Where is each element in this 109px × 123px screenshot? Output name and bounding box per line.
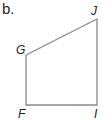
vertex-label-g: G xyxy=(16,43,25,57)
vertex-label-f: F xyxy=(18,107,26,121)
vertex-label-j: J xyxy=(90,4,98,18)
quadrilateral-shape xyxy=(26,19,97,105)
quadrilateral-figure: G J I F xyxy=(0,0,109,123)
vertex-label-i: I xyxy=(94,107,98,121)
